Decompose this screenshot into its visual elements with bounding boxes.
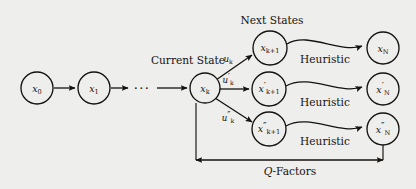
node-xk1-prime: x′k+1 <box>252 72 286 106</box>
node-xk: xk <box>190 73 220 103</box>
ellipsis-label: ··· <box>134 81 151 96</box>
node-x1: x1 <box>78 72 110 104</box>
current-state-label: Current State <box>151 54 225 66</box>
heuristic-label-middle: Heuristic <box>300 96 350 108</box>
node-x0: x0 <box>21 72 53 104</box>
q-factors-label: Q-Factors <box>264 165 316 178</box>
node-xk1-dprime: x″k+1 <box>252 112 286 146</box>
node-xk1: xk+1 <box>253 31 287 65</box>
node-xN-dprime: x″N <box>367 113 399 145</box>
diagram-svg: x0 x1 ··· xk xk+1 x′k+1 <box>0 0 416 189</box>
next-states-label: Next States <box>241 14 304 26</box>
heuristic-label-top: Heuristic <box>300 53 350 65</box>
heuristic-label-bottom: Heuristic <box>300 135 350 147</box>
node-xN: xN <box>367 32 399 64</box>
node-xN-prime: x′N <box>367 73 399 105</box>
figure-canvas: x0 x1 ··· xk xk+1 x′k+1 <box>0 0 416 189</box>
